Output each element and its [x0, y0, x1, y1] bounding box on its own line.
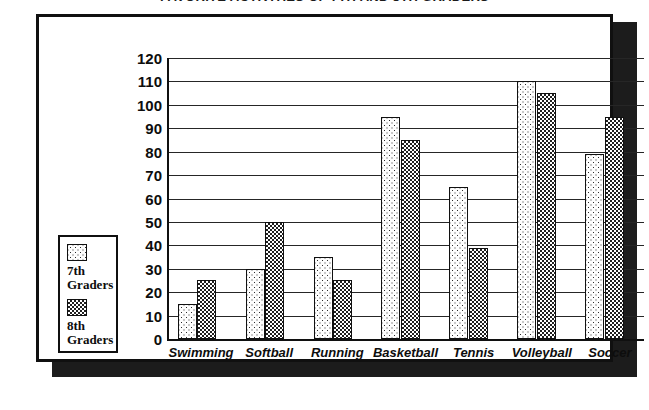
legend-swatch-7th-graders-icon [67, 244, 87, 261]
bars-layer [169, 58, 644, 339]
bar-soccer-8th-graders[interactable] [605, 117, 624, 339]
bar-softball-7th-graders[interactable] [246, 269, 265, 339]
legend-entry-8th-graders: 8th Graders [67, 299, 116, 347]
bar-basketball-8th-graders[interactable] [401, 140, 420, 339]
chart-card: 7th Graders 8th Graders 0102030405060708… [36, 14, 613, 362]
y-axis-tick-label: 110 [138, 73, 162, 90]
plot-area: 0102030405060708090100110120 [167, 58, 644, 341]
y-axis-tick-label: 0 [154, 331, 162, 348]
y-axis-tick-label: 90 [145, 120, 162, 137]
chart-legend: 7th Graders 8th Graders [58, 235, 118, 353]
bar-group [169, 58, 237, 339]
bar-group [508, 58, 576, 339]
bar-group [305, 58, 373, 339]
y-axis-tick-label: 40 [145, 237, 162, 254]
bar-running-7th-graders[interactable] [314, 257, 333, 339]
bar-group [373, 58, 441, 339]
bar-group [237, 58, 305, 339]
y-axis-tick-label: 50 [145, 213, 162, 230]
bar-basketball-7th-graders[interactable] [381, 117, 400, 339]
y-axis-tick-label: 100 [137, 96, 162, 113]
bar-soccer-7th-graders[interactable] [585, 154, 604, 339]
legend-label-8th-line1: 8th [67, 319, 116, 333]
legend-entry-7th-graders: 7th Graders [67, 244, 116, 292]
bar-group [576, 58, 644, 339]
bar-tennis-7th-graders[interactable] [449, 187, 468, 339]
y-axis-tick-label: 60 [145, 190, 162, 207]
x-axis-label-tennis: Tennis [453, 345, 494, 360]
bar-softball-8th-graders[interactable] [265, 222, 284, 339]
legend-label-7th-line2: Graders [67, 278, 116, 292]
y-axis-tick-label: 70 [145, 167, 162, 184]
x-axis-category-labels: SwimmingSoftballRunningBasketballTennisV… [167, 345, 644, 367]
plot-wrap: 0102030405060708090100110120 [167, 58, 644, 341]
y-axis-tick-label: 10 [145, 307, 162, 324]
bar-swimming-8th-graders[interactable] [197, 280, 216, 339]
bar-group [440, 58, 508, 339]
bar-volleyball-8th-graders[interactable] [537, 93, 556, 339]
bar-swimming-7th-graders[interactable] [178, 304, 197, 339]
x-axis-label-soccer: Soccer [588, 345, 631, 360]
legend-swatch-8th-graders-icon [67, 299, 87, 316]
x-axis-label-basketball: Basketball [373, 345, 438, 360]
x-axis-label-running: Running [311, 345, 364, 360]
y-axis-tick-label: 20 [145, 284, 162, 301]
bar-running-8th-graders[interactable] [333, 280, 352, 339]
bar-tennis-8th-graders[interactable] [469, 248, 488, 339]
legend-label-7th-line1: 7th [67, 264, 116, 278]
chart-title: FAVORITE ACTIVITIES OF 7TH AND 8TH GRADE… [0, 0, 649, 4]
y-axis-tick-label: 80 [145, 143, 162, 160]
y-axis-tick-label: 120 [137, 50, 162, 67]
legend-label-8th-line2: Graders [67, 333, 116, 347]
y-axis-tick-label: 30 [145, 260, 162, 277]
bar-volleyball-7th-graders[interactable] [517, 81, 536, 339]
x-axis-label-softball: Softball [245, 345, 293, 360]
x-axis-label-volleyball: Volleyball [512, 345, 572, 360]
x-axis-label-swimming: Swimming [169, 345, 234, 360]
